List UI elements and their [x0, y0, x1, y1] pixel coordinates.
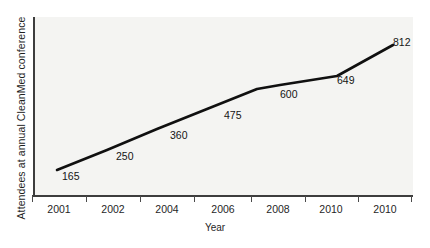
x-axis-tick — [305, 196, 306, 202]
attendees-line-chart: Attendees at annual CleanMed conference … — [0, 0, 430, 248]
data-label-250: 250 — [116, 150, 134, 162]
data-label-812: 812 — [393, 36, 411, 48]
data-label-649: 649 — [337, 74, 355, 86]
x-axis-tick — [358, 196, 359, 202]
data-label-360: 360 — [170, 129, 188, 141]
x-tick-label-4: 2006 — [195, 203, 251, 215]
data-label-600: 600 — [280, 88, 298, 100]
x-axis-tick — [86, 196, 87, 202]
x-axis-tick — [32, 196, 33, 202]
x-tick-label-2: 2002 — [85, 203, 141, 215]
x-tick-label-1: 2001 — [31, 203, 87, 215]
x-tick-label-6: 2010 — [303, 203, 359, 215]
series-line-attendees — [57, 45, 393, 170]
y-axis-line — [33, 17, 35, 196]
data-line-svg — [33, 17, 413, 196]
y-axis-title: Attendees at annual CleanMed conference — [10, 8, 32, 228]
x-axis-line — [32, 195, 413, 197]
plot-area — [33, 17, 413, 196]
x-tick-label-5: 2008 — [250, 203, 306, 215]
data-label-475: 475 — [224, 109, 242, 121]
x-axis-tick — [140, 196, 141, 202]
x-axis-title: Year — [0, 222, 430, 233]
x-axis-tick — [194, 196, 195, 202]
x-tick-label-7: 2010 — [357, 203, 413, 215]
x-axis-tick — [251, 196, 252, 202]
x-tick-label-3: 2004 — [139, 203, 195, 215]
data-label-165: 165 — [62, 170, 80, 182]
x-axis-tick — [411, 196, 412, 202]
